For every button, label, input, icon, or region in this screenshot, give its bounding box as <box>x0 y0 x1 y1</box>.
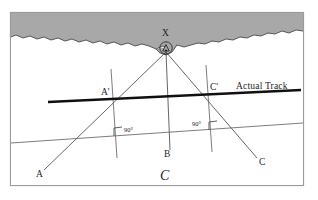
label-right-angle-right: 90° <box>192 121 201 128</box>
label-right-angle-left: 90° <box>124 127 133 134</box>
label-landmark-x: X <box>162 29 169 39</box>
label-point-a-prime: A' <box>101 88 110 98</box>
figure-canvas: X A' C' Actual Track 90° 90° A B C C <box>0 0 318 200</box>
label-point-a: A <box>36 170 43 180</box>
label-actual-track: Actual Track <box>236 82 288 92</box>
label-point-c: C <box>259 158 265 168</box>
navigation-diagram <box>0 0 318 200</box>
figure-caption: C <box>160 169 169 183</box>
label-point-c-prime: C' <box>210 83 218 93</box>
label-point-b: B <box>164 150 170 160</box>
